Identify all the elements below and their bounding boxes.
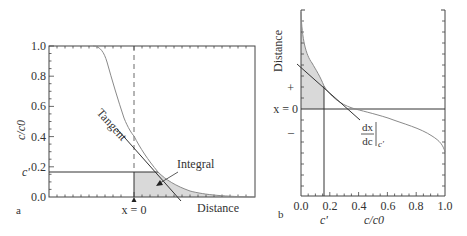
panel-b-y-axis-label: Distance: [271, 30, 285, 72]
panel-a-label: a: [16, 204, 21, 216]
panel-b-x-zero-label: x = 0: [273, 102, 298, 116]
panel-b-xtick-0.8: 0.8: [409, 199, 424, 213]
panel-b-x-axis-label: c/c0: [364, 213, 384, 227]
panel-a-ytick-1.0: 1.0: [31, 39, 46, 53]
panel-a-ytick-0.4: 0.4: [31, 130, 46, 144]
panel-a-ytick-0.2: 0.2: [31, 160, 46, 174]
panel-a-ytick-0.8: 0.8: [31, 69, 46, 83]
panel-b-xtick-1.0: 1.0: [438, 199, 453, 213]
panel-b-label: b: [278, 208, 284, 220]
derivative-denominator: dc: [362, 135, 373, 147]
panel-a: [49, 46, 255, 202]
panel-a-c-prime-label: c': [22, 165, 30, 179]
integral-label: Integral: [177, 157, 215, 171]
panel-a-y-axis-label: c/c0: [14, 120, 28, 140]
panel-b-plus-label: +: [287, 81, 294, 95]
inverted-profile-curve: [301, 12, 445, 152]
derivative-numerator: dx: [362, 121, 374, 133]
panel-b-minus-label: –: [287, 125, 295, 139]
panel-b-xtick-0.0: 0.0: [294, 199, 309, 213]
diffusion-diagram: 1.0 0.8 0.6 0.4 0.2 0.0 c' c/c0 a x = 0 …: [0, 0, 467, 236]
panel-a-x-axis-label: Distance: [197, 201, 239, 215]
panel-a-x-zero-label: x = 0: [122, 203, 147, 217]
integral-shaded-region: [134, 172, 255, 197]
panel-b-c-prime-label: c': [320, 213, 328, 227]
panel-a-ytick-0.6: 0.6: [31, 99, 46, 113]
panel-b-xtick-0.4: 0.4: [352, 199, 367, 213]
panel-a-y-ticks: [49, 46, 54, 189]
panel-b-shaded-region: [301, 12, 324, 109]
derivative-subscript: c': [378, 139, 385, 149]
panel-b-xtick-0.2: 0.2: [323, 199, 338, 213]
x-zero-marker-icon: [132, 197, 137, 202]
panel-b: [297, 10, 445, 196]
tangent-label: Tangent: [94, 106, 131, 144]
panel-b-xtick-0.6: 0.6: [381, 199, 396, 213]
panel-a-ytick-0.0: 0.0: [31, 190, 46, 204]
panel-b-x-ticks: [308, 192, 438, 196]
